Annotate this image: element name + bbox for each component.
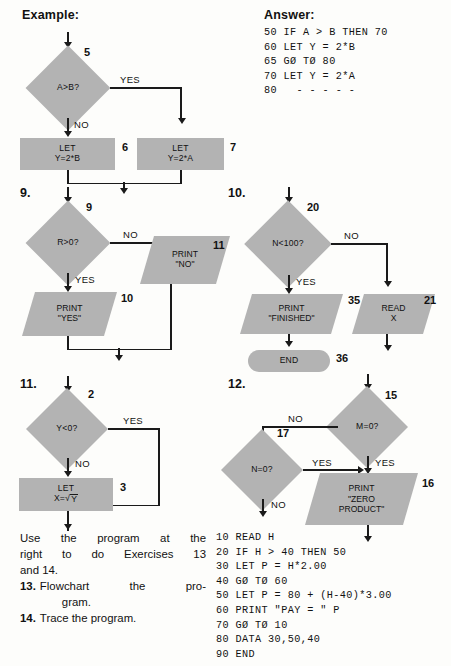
- ex10-no-label: NO: [344, 230, 359, 241]
- ex10-read-parallelogram: READ X: [352, 294, 435, 334]
- ex12-m-decision-text: M=0?: [356, 422, 379, 432]
- ex11-let-radicand: Y: [70, 494, 78, 505]
- ex11-decision-text: Y<0?: [56, 424, 77, 434]
- ex10-print-line2: "FINISHED": [268, 314, 314, 324]
- ex11-let-prefix: X=: [54, 494, 65, 504]
- ex12-print-number: 16: [422, 477, 434, 489]
- example-yes-line-h: [110, 87, 182, 89]
- example-yes-label: YES: [120, 74, 140, 85]
- exercise-item-13: 13. Flowchart the pro- gram.: [20, 578, 206, 610]
- ex10-no-line-h: [331, 243, 388, 245]
- exercise-item-13-line1: Flowchart the pro-: [40, 578, 206, 594]
- ex9-decision-number: 9: [86, 201, 92, 213]
- ex10-read-line2: X: [391, 314, 397, 324]
- ex9-print-yes-number: 10: [121, 292, 133, 304]
- instructions-line-2: right to do Exercises 13: [20, 546, 206, 562]
- ex9-print-no-line2: "NO": [176, 260, 195, 270]
- ex9-no-label: NO: [123, 229, 138, 240]
- ex12-m-no-line-h: [262, 426, 338, 428]
- example-decision-number: 5: [84, 46, 90, 58]
- example-no-label: NO: [74, 119, 89, 130]
- ex11-yes-label: YES: [123, 415, 143, 426]
- instructions-block: Use the program at the right to do Exerc…: [20, 530, 206, 626]
- ex11-process-box: LET X= √ Y: [19, 478, 113, 511]
- worksheet-page: Example: Answer: 50 IF A > B THEN 70 60 …: [0, 0, 451, 666]
- answer-code-listing: 50 IF A > B THEN 70 60 LET Y = 2*B 65 GØ…: [264, 26, 388, 99]
- ex9-exit-arrow: [115, 355, 123, 361]
- ex10-yes-label: YES: [296, 276, 316, 287]
- ex9-merge-right-v: [170, 284, 172, 350]
- program-code-listing: 10 READ H 20 IF H > 40 THEN 50 30 LET P …: [216, 531, 392, 662]
- example-exit-arrow: [120, 188, 128, 194]
- ex10-end-number: 36: [336, 352, 348, 364]
- exercise-item-14-line1: Trace the program.: [40, 610, 206, 626]
- ex12-m-yes-label: YES: [375, 457, 395, 468]
- ex9-decision-text: R>0?: [57, 238, 79, 248]
- ex11-no-label: NO: [75, 458, 90, 469]
- example-yes-line-v: [180, 87, 182, 120]
- example-right-process-box: LET Y=2*A: [137, 138, 224, 170]
- example-decision-text: A>B?: [57, 83, 79, 93]
- exercise-item-13-line2: gram.: [40, 594, 206, 610]
- ex10-decision-number: 20: [307, 201, 319, 213]
- answer-heading: Answer:: [264, 8, 315, 22]
- ex12-n-decision-number: 17: [277, 427, 289, 439]
- ex12-n-yes-label: YES: [312, 457, 332, 468]
- ex10-end-label: END: [280, 356, 299, 366]
- ex11-decision-number: 2: [88, 388, 94, 400]
- example-left-box-number: 6: [122, 141, 128, 153]
- ex12-m-decision-number: 15: [385, 389, 397, 401]
- ex10-no-line-v: [386, 243, 388, 284]
- ex11-yes-line-h: [108, 428, 160, 430]
- exercise-item-13-number: 13.: [20, 578, 36, 610]
- exercise-9-number: 9.: [20, 186, 30, 200]
- ex10-end-terminator: END: [248, 350, 330, 372]
- ex12-n-decision-text: N=0?: [251, 465, 273, 475]
- ex11-let-line2: X= √ Y: [54, 494, 78, 505]
- ex11-yes-line-v: [158, 428, 160, 506]
- exercise-item-14-number: 14.: [20, 610, 36, 626]
- example-left-box-line2: Y=2*B: [55, 154, 81, 164]
- ex11-box-number: 3: [120, 481, 126, 493]
- ex12-m-no-label: NO: [288, 413, 303, 424]
- exercise-item-14: 14. Trace the program.: [20, 610, 206, 626]
- example-right-box-number: 7: [230, 141, 236, 153]
- ex12-n-no-arrow: [259, 511, 267, 517]
- example-no-arrow: [64, 131, 72, 137]
- ex10-read-number: 21: [424, 294, 436, 306]
- ex10-decision-text: N<100?: [272, 239, 304, 249]
- example-left-process-box: LET Y=2*B: [20, 138, 115, 170]
- ex10-print-parallelogram: PRINT "FINISHED": [240, 294, 343, 334]
- ex9-yes-label: YES: [75, 274, 95, 285]
- example-heading: Example:: [22, 8, 79, 22]
- instructions-line-3: and 14.: [20, 562, 206, 578]
- ex10-print-exit-arrow: [285, 341, 293, 347]
- instructions-line-1: Use the program at the: [20, 530, 206, 546]
- ex12-print-parallelogram: PRINT "ZERO PRODUCT": [305, 473, 418, 525]
- ex10-no-arrow: [384, 281, 392, 287]
- ex12-print-line3: PRODUCT": [339, 504, 385, 515]
- ex9-print-no-number: 11: [213, 239, 225, 251]
- example-yes-arrow: [178, 118, 186, 124]
- ex12-n-no-label: NO: [271, 499, 286, 510]
- ex10-read-exit-arrow: [384, 345, 392, 351]
- example-right-box-line2: Y=2*A: [168, 154, 194, 164]
- exercise-10-number: 10.: [228, 186, 245, 200]
- exercise-12-number: 12.: [228, 377, 245, 391]
- ex9-print-yes-parallelogram: PRINT "YES": [22, 292, 117, 336]
- exercise-11-number: 11.: [20, 377, 37, 391]
- ex12-print-line1: PRINT: [349, 483, 375, 494]
- ex12-n-yes-line: [303, 469, 361, 471]
- ex9-print-yes-line2: "YES": [58, 314, 81, 324]
- ex11-no-arrow: [64, 471, 72, 477]
- ex12-print-line2: "ZERO: [348, 494, 375, 505]
